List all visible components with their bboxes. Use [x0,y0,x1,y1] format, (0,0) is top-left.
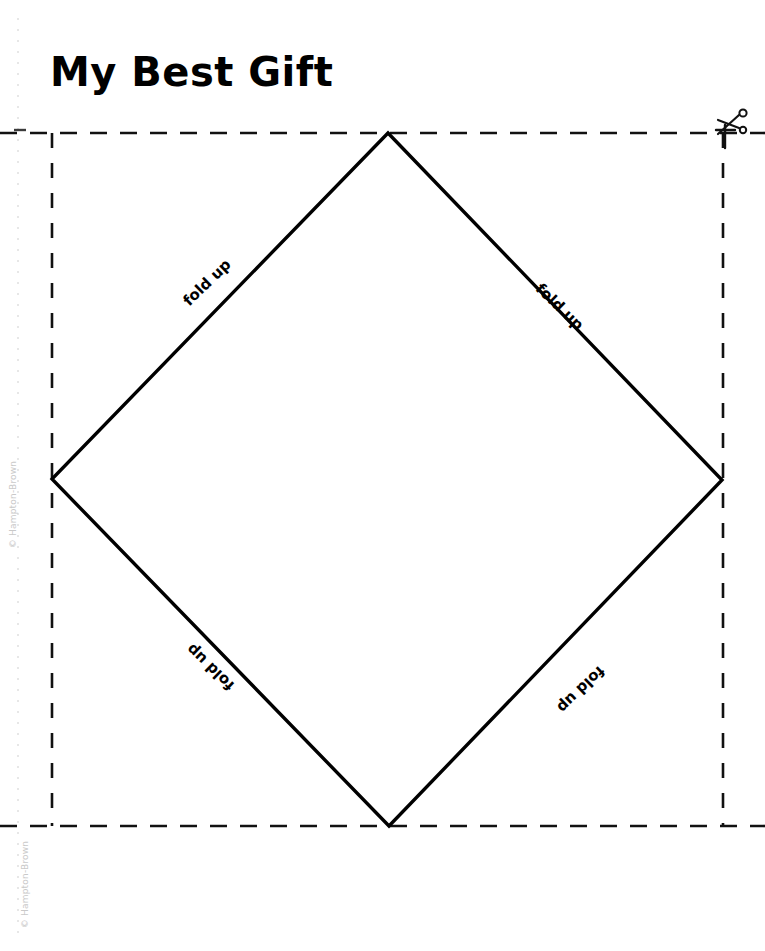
scissors-icon [712,108,752,150]
credit-left: © Hampton-Brown [9,461,18,549]
diamond-fold-outline [52,133,722,826]
credit-bottom: © Hampton-Brown [21,841,30,929]
worksheet-page: My Best Gift fold up fo [0,0,765,951]
template-lines-canvas [0,0,765,951]
